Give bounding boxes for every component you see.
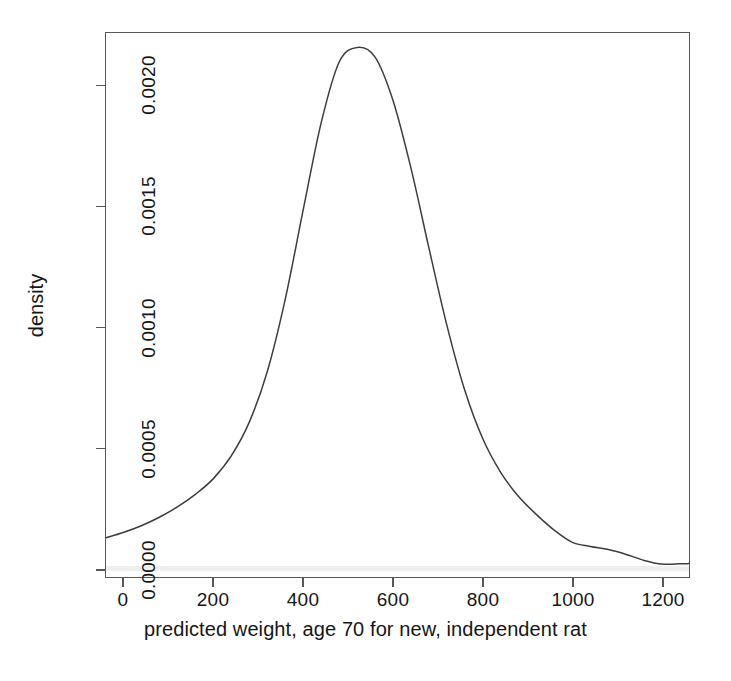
x-tick-label: 800 (467, 589, 499, 611)
x-tick-label: 0 (118, 589, 129, 611)
y-tick-label-text: 0.0010 (138, 298, 160, 357)
density-curve-path (106, 47, 689, 564)
y-tick-label: 0.0005 (138, 449, 160, 508)
x-axis-title-text: predicted weight, age 70 for new, indepe… (144, 618, 587, 640)
x-tick-mark (302, 578, 303, 587)
y-tick-mark (96, 327, 105, 328)
x-tick-mark (122, 578, 123, 587)
x-tick-label: 1000 (551, 589, 594, 611)
x-tick-label: 400 (287, 589, 319, 611)
y-tick-label-text: 0.0020 (138, 56, 160, 115)
x-tick-mark (212, 578, 213, 587)
y-tick-label: 0.0010 (138, 328, 160, 387)
y-tick-mark (96, 569, 105, 570)
y-tick-label-text: 0.0005 (138, 419, 160, 478)
y-axis-title-text: density (26, 273, 49, 336)
x-tick-mark (572, 578, 573, 587)
x-tick-label: 1200 (641, 589, 684, 611)
x-tick-label: 600 (377, 589, 409, 611)
x-axis-title: predicted weight, age 70 for new, indepe… (0, 618, 731, 641)
y-tick-mark (96, 85, 105, 86)
y-axis-title: density (22, 0, 52, 610)
y-tick-mark (96, 206, 105, 207)
x-tick-mark (482, 578, 483, 587)
density-figure: density 020040060080010001200 0.00000.00… (0, 0, 731, 681)
y-tick-label-text: 0.0015 (138, 177, 160, 236)
density-curve-svg (106, 33, 689, 577)
x-tick-label: 200 (197, 589, 229, 611)
y-tick-label: 0.0015 (138, 206, 160, 265)
x-tick-mark (392, 578, 393, 587)
plot-area (105, 32, 690, 578)
baseline-artifact (106, 566, 689, 571)
x-tick-mark (662, 578, 663, 587)
y-tick-label-text: 0.0000 (138, 540, 160, 599)
y-tick-label: 0.0020 (138, 85, 160, 144)
y-tick-mark (96, 448, 105, 449)
